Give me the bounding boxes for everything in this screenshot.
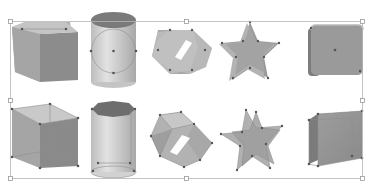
shapes-canvas: [0, 0, 375, 188]
resize-handle-middle-left[interactable]: [9, 99, 13, 103]
cube-wireframe: [11, 103, 80, 170]
star-prism-wireframe: [220, 109, 283, 171]
cylinder-wireframe: [91, 101, 136, 178]
cube-solid: [12, 22, 78, 82]
resize-handle-top-left[interactable]: [9, 20, 13, 24]
resize-handle-top-middle[interactable]: [185, 20, 189, 24]
cylinder-solid: [90, 12, 138, 88]
resize-handle-middle-right[interactable]: [361, 99, 365, 103]
resize-handle-bottom-left[interactable]: [9, 177, 13, 181]
shapes-figure: [0, 0, 375, 188]
resize-handle-bottom-right[interactable]: [361, 177, 365, 181]
resize-handle-top-right[interactable]: [361, 20, 365, 24]
hexagonal-prism-solid: [152, 29, 212, 74]
box-wireframe: [308, 110, 364, 168]
resize-handle-bottom-middle[interactable]: [185, 177, 189, 181]
hexagonal-prism-wireframe: [150, 111, 213, 168]
star-prism-solid: [219, 21, 280, 81]
rounded-box-solid: [308, 25, 363, 76]
